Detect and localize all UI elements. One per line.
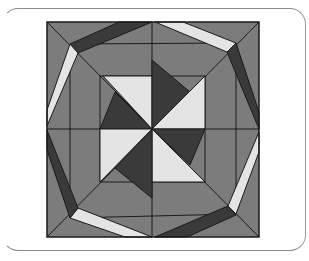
quilt-diagram xyxy=(0,0,309,261)
